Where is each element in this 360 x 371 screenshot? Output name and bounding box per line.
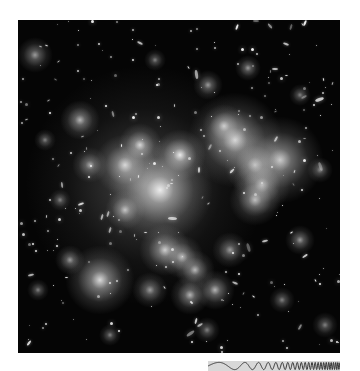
faint-galaxy (77, 70, 79, 72)
faint-galaxy (73, 319, 74, 320)
galaxy-glow (194, 317, 220, 343)
faint-galaxy (331, 82, 333, 85)
faint-galaxy (110, 194, 111, 195)
faint-galaxy (79, 213, 80, 214)
faint-galaxy (252, 295, 255, 298)
faint-galaxy (114, 74, 117, 77)
faint-galaxy (223, 300, 224, 301)
faint-galaxy (113, 216, 114, 217)
faint-galaxy (35, 250, 37, 252)
faint-galaxy (156, 265, 157, 266)
faint-galaxy (132, 29, 134, 31)
faint-galaxy (132, 39, 133, 40)
faint-galaxy (75, 208, 76, 209)
faint-galaxy (315, 96, 324, 102)
faint-galaxy (274, 136, 279, 142)
faint-galaxy (251, 87, 253, 89)
faint-galaxy (303, 109, 305, 111)
faint-galaxy (264, 95, 266, 97)
faint-galaxy (135, 113, 137, 115)
faint-galaxy (242, 254, 245, 257)
faint-galaxy (318, 162, 324, 171)
faint-galaxy (262, 239, 268, 242)
faint-galaxy (320, 115, 321, 116)
faint-galaxy (288, 311, 289, 312)
faint-galaxy (136, 239, 137, 240)
faint-galaxy (110, 322, 113, 325)
faint-galaxy (165, 266, 167, 268)
faint-galaxy (110, 293, 111, 294)
faint-galaxy (116, 280, 118, 282)
faint-galaxy (227, 160, 228, 161)
faint-galaxy (90, 165, 92, 167)
faint-galaxy (232, 304, 233, 305)
faint-galaxy (86, 147, 87, 150)
faint-galaxy (121, 144, 122, 147)
faint-galaxy (282, 205, 283, 206)
faint-galaxy (190, 30, 192, 32)
faint-galaxy (285, 75, 288, 76)
faint-galaxy (229, 168, 235, 174)
galaxy-glow (132, 272, 167, 307)
faint-galaxy (70, 152, 72, 154)
faint-galaxy (206, 341, 207, 342)
faint-galaxy (331, 104, 332, 105)
faint-galaxy (191, 302, 193, 304)
faint-galaxy (234, 167, 235, 168)
faint-galaxy (242, 292, 244, 295)
faint-galaxy (65, 277, 68, 278)
faint-galaxy (118, 219, 120, 221)
faint-galaxy (28, 273, 34, 276)
faint-galaxy (52, 158, 54, 160)
faint-galaxy (237, 63, 239, 65)
faint-galaxy (160, 126, 161, 127)
faint-galaxy (332, 150, 333, 151)
faint-galaxy (162, 166, 163, 167)
faint-galaxy (158, 241, 161, 244)
faint-galaxy (339, 274, 340, 275)
faint-galaxy (309, 82, 310, 83)
faint-galaxy (289, 54, 290, 55)
chirp-wave-scale-bar (208, 361, 340, 371)
faint-galaxy (214, 92, 215, 93)
faint-galaxy (49, 112, 51, 114)
galaxy-glow (236, 116, 324, 204)
faint-galaxy (170, 183, 173, 184)
faint-galaxy (137, 41, 143, 45)
faint-galaxy (26, 340, 31, 346)
faint-galaxy (186, 330, 195, 338)
faint-galaxy (200, 129, 202, 131)
faint-galaxy (174, 104, 175, 107)
faint-galaxy (292, 183, 294, 186)
faint-galaxy (241, 48, 244, 51)
faint-galaxy (77, 44, 79, 46)
faint-galaxy (219, 150, 221, 152)
faint-galaxy (83, 78, 85, 80)
galaxy-glow (55, 245, 86, 276)
faint-galaxy (42, 327, 44, 329)
faint-galaxy (91, 20, 94, 23)
faint-galaxy (323, 78, 325, 81)
faint-galaxy (105, 105, 107, 107)
faint-galaxy (276, 215, 277, 216)
faint-galaxy (305, 127, 307, 129)
faint-galaxy (79, 209, 82, 212)
faint-galaxy (109, 282, 111, 284)
faint-galaxy (47, 230, 49, 232)
faint-galaxy (277, 212, 278, 213)
faint-galaxy (270, 281, 273, 284)
faint-galaxy (47, 99, 50, 101)
faint-galaxy (261, 182, 263, 184)
faint-galaxy (196, 28, 198, 30)
faint-galaxy (149, 163, 150, 164)
faint-galaxy (214, 42, 215, 43)
faint-galaxy (240, 307, 241, 308)
galaxy-glow (99, 324, 121, 346)
faint-galaxy (118, 330, 120, 332)
faint-galaxy (84, 151, 85, 152)
galaxy-glow (187, 92, 284, 189)
faint-galaxy (319, 283, 321, 285)
faint-galaxy (58, 218, 61, 221)
faint-galaxy (260, 116, 263, 119)
galaxy-glow (144, 49, 166, 71)
